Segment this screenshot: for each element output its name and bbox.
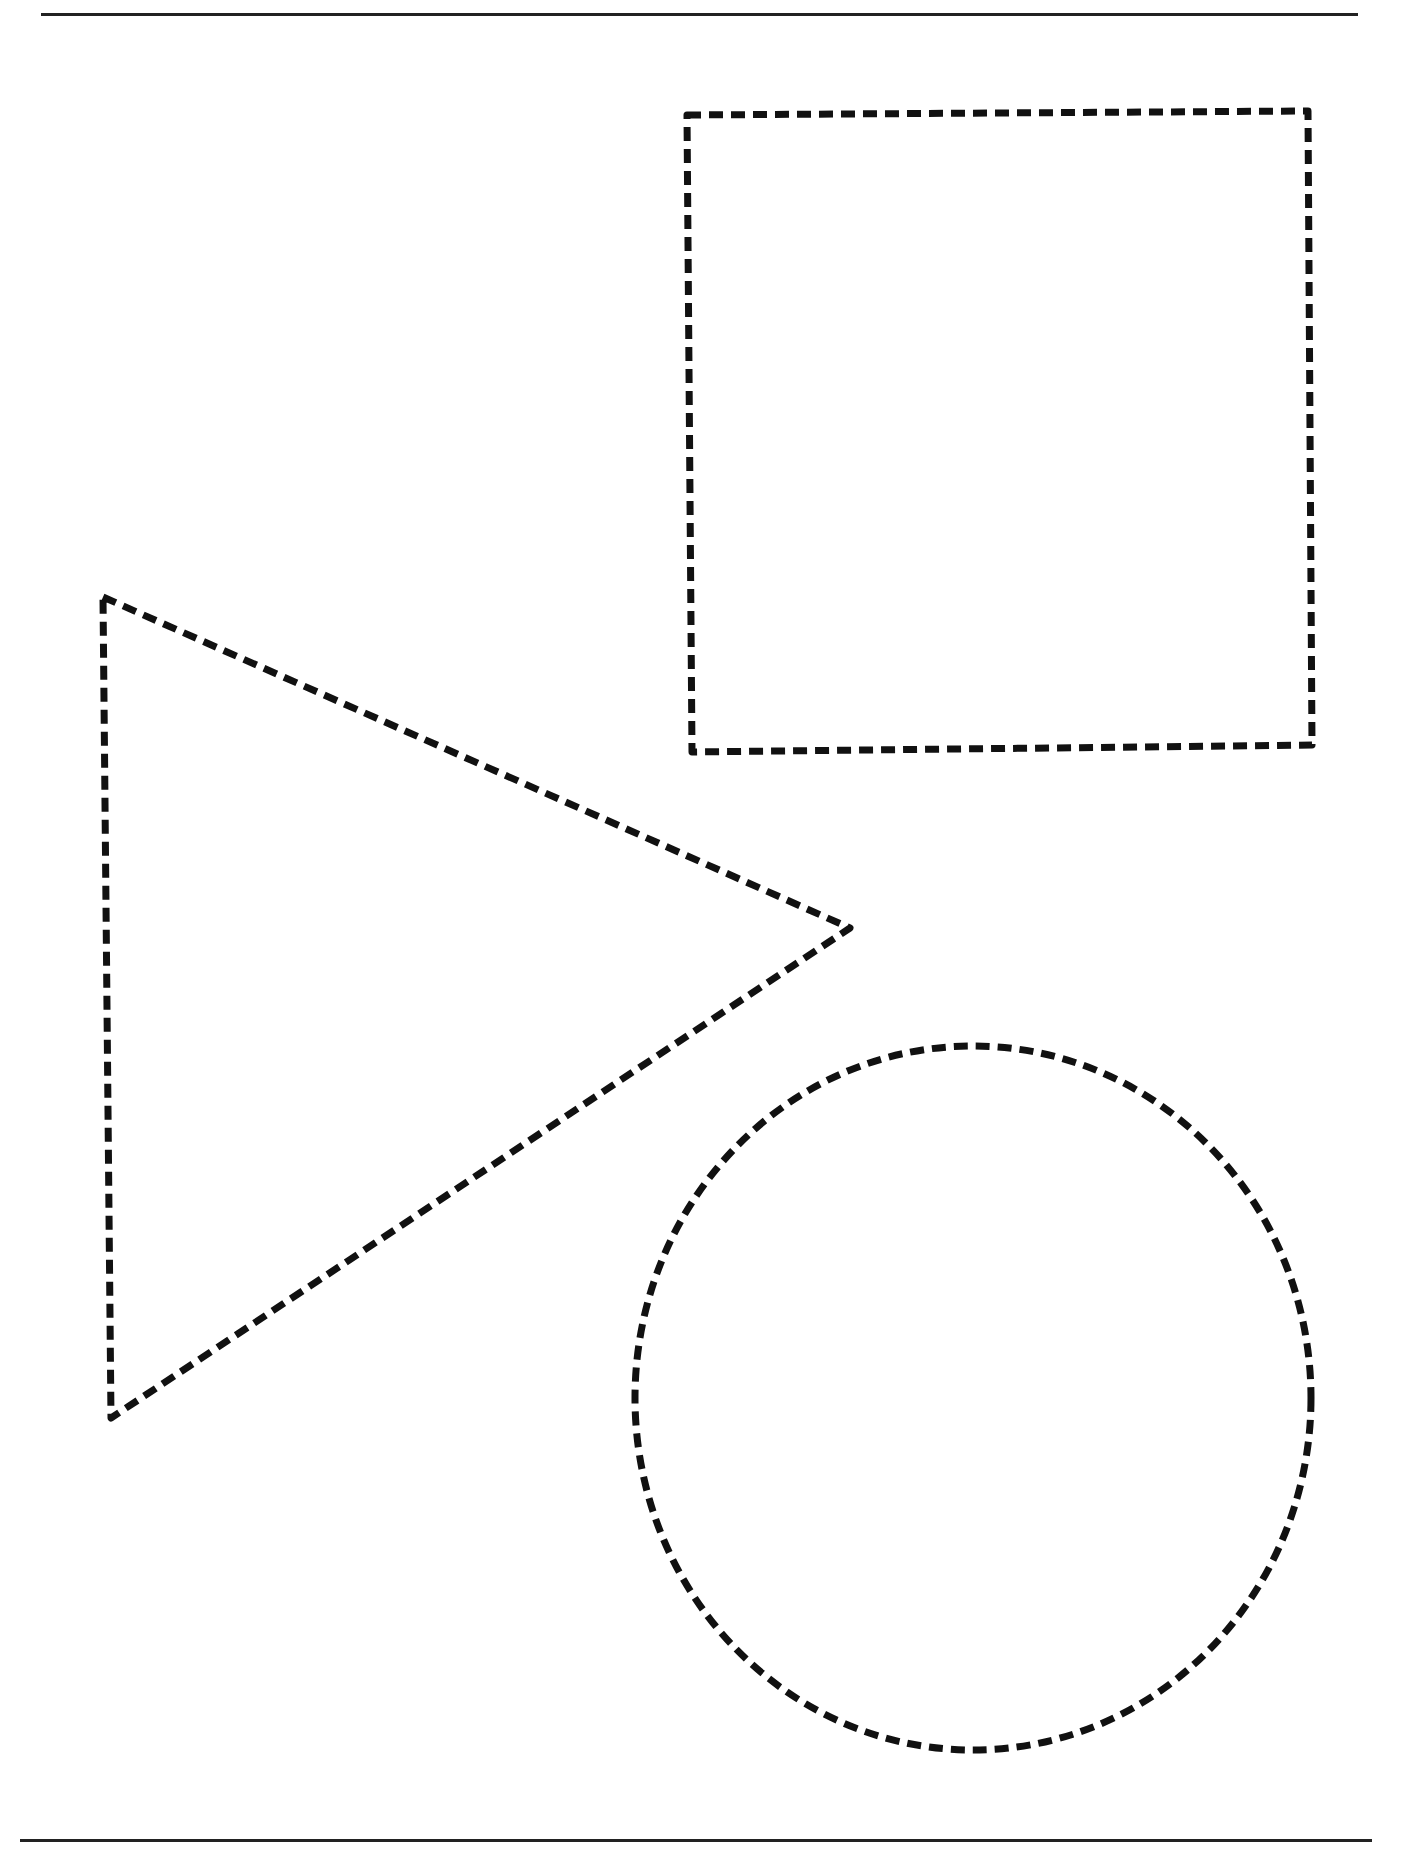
shapes-canvas <box>0 0 1407 1852</box>
worksheet-page <box>0 0 1407 1852</box>
bottom-rule <box>20 1839 1372 1842</box>
circle-outline <box>635 1046 1311 1750</box>
triangle-outline <box>103 597 850 1418</box>
square-outline <box>687 111 1312 752</box>
